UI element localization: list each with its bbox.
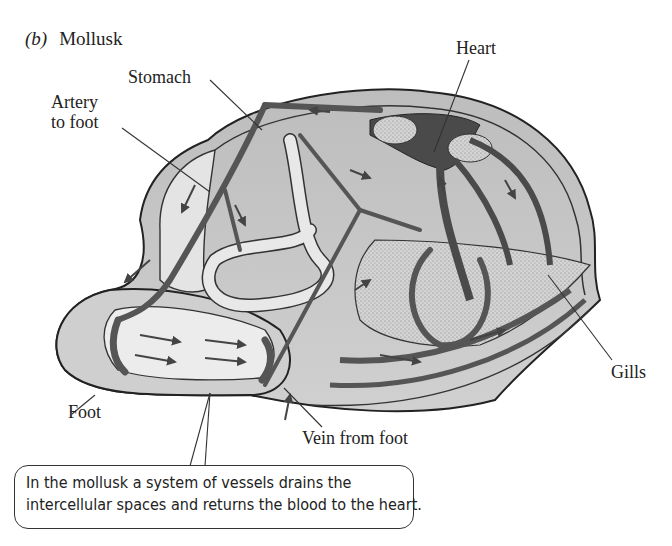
figure-title: (b)Mollusk <box>25 28 123 50</box>
callout-line2: intercellular spaces and returns the blo… <box>26 494 386 516</box>
explanation-callout: In the mollusk a system of vessels drain… <box>14 465 414 529</box>
label-stomach: Stomach <box>128 67 191 87</box>
label-gills: Gills <box>611 362 646 382</box>
label-artery-line1: Artery <box>51 92 98 112</box>
label-vein-from-foot: Vein from foot <box>302 428 408 448</box>
label-heart: Heart <box>456 38 496 58</box>
label-foot: Foot <box>68 402 101 422</box>
panel-title: Mollusk <box>59 28 122 49</box>
label-artery-line2: to foot <box>51 112 99 132</box>
callout-line1: In the mollusk a system of vessels drain… <box>26 472 386 494</box>
panel-letter: (b) <box>25 28 47 49</box>
